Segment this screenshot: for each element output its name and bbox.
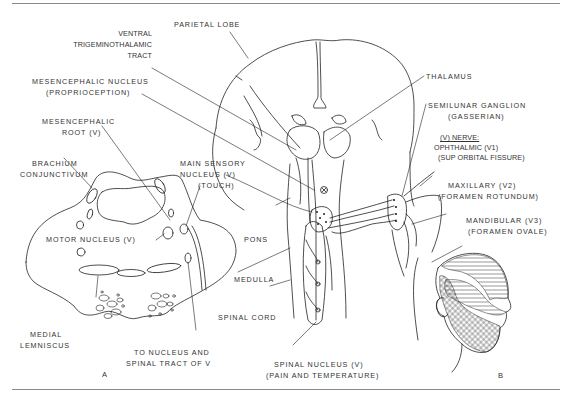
- label-parietal-lobe: PARIETAL LOBE: [174, 20, 240, 30]
- label-main-sensory-2: NUCLEUS (V): [180, 170, 236, 180]
- label-spinal-cord: SPINAL CORD: [218, 313, 276, 323]
- panel-label-a: A: [102, 370, 107, 380]
- label-mesencephalic-nucleus-1: MESENCEPHALIC NUCLEUS: [32, 77, 149, 87]
- label-brachium-2: CONJUNCTIVUM: [20, 170, 88, 180]
- panel-label-b: B: [498, 371, 503, 381]
- label-main-sensory-1: MAIN SENSORY: [180, 159, 246, 169]
- label-maxillary-1: MAXILLARY (V2): [448, 181, 516, 191]
- label-mesencephalic-nucleus-2: (PROPRIOCEPTION): [46, 88, 130, 98]
- label-medulla: MEDULLA: [234, 275, 274, 285]
- label-spinal-nucleus-2: (PAIN AND TEMPERATURE): [266, 371, 379, 381]
- label-main-sensory-3: (TOUCH): [198, 181, 235, 191]
- pons-cross-section: [26, 172, 236, 319]
- label-ventral-tract-1: VENTRAL: [104, 29, 152, 39]
- label-medial-lemniscus-1: MEDIAL: [30, 330, 62, 340]
- label-brachium-1: BRACHIUM: [32, 159, 78, 169]
- label-ventral-tract-2: TRIGEMINOTHALAMIC: [62, 40, 152, 50]
- label-pons: PONS: [244, 235, 268, 245]
- label-semilunar-2: (GASSERIAN): [448, 112, 505, 122]
- label-ophthalmic-2: (SUP ORBITAL FISSURE): [438, 153, 525, 163]
- label-thalamus: THALAMUS: [426, 72, 472, 82]
- label-mesencephalic-root-1: MESENCEPHALIC: [42, 117, 115, 127]
- label-spinal-nucleus-1: SPINAL NUCLEUS (V): [274, 360, 363, 370]
- label-medial-lemniscus-2: LEMNISCUS: [20, 341, 70, 351]
- label-ventral-tract-3: TRACT: [104, 51, 152, 61]
- label-v-nerve: (V) NERVE:: [440, 133, 479, 143]
- label-mesencephalic-root-2: ROOT (V): [62, 128, 101, 138]
- brain-coronal-section: [213, 40, 442, 340]
- label-mandibular-2: (FORAMEN OVALE): [468, 227, 548, 237]
- label-ophthalmic-1: OPHTHALMIC (V1): [434, 143, 498, 153]
- label-maxillary-2: (FORAMEN ROTUNDUM): [438, 192, 539, 202]
- label-semilunar-1: SEMILUNAR GANGLION: [428, 101, 526, 111]
- face-dermatomes: [436, 253, 511, 372]
- label-to-nucleus-2: SPINAL TRACT OF V: [126, 359, 211, 369]
- label-mandibular-1: MANDIBULAR (V3): [466, 216, 542, 226]
- label-v-nerve-text: (V) NERVE:: [440, 133, 479, 142]
- label-to-nucleus-1: TO NUCLEUS AND: [134, 348, 210, 358]
- label-motor-nucleus: MOTOR NUCLEUS (V): [46, 235, 136, 245]
